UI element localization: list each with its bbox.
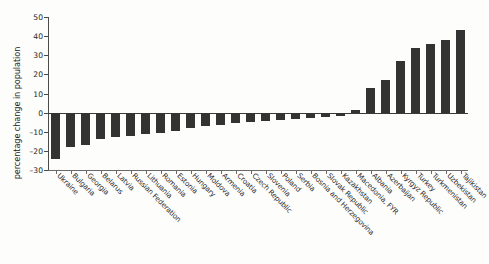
bar bbox=[336, 113, 346, 117]
bar bbox=[456, 30, 466, 112]
plot-area: 50403020100–10–20–30 bbox=[48, 17, 468, 170]
x-tick-mark bbox=[296, 170, 297, 174]
bar bbox=[321, 113, 331, 118]
x-tick-mark bbox=[236, 170, 237, 174]
x-tick-mark bbox=[86, 170, 87, 174]
x-tick-mark bbox=[221, 170, 222, 174]
bar bbox=[141, 113, 151, 134]
bar bbox=[351, 110, 361, 113]
y-axis-line bbox=[48, 17, 49, 170]
x-tick-mark bbox=[116, 170, 117, 174]
x-tick-mark bbox=[146, 170, 147, 174]
y-tick-mark bbox=[44, 113, 48, 114]
x-tick-mark bbox=[386, 170, 387, 174]
x-tick-mark bbox=[416, 170, 417, 174]
y-tick-mark bbox=[44, 55, 48, 56]
x-tick-mark bbox=[206, 170, 207, 174]
y-axis-title: percentage change in population bbox=[12, 38, 22, 188]
x-tick-mark bbox=[461, 170, 462, 174]
bar bbox=[66, 113, 76, 147]
x-tick-mark bbox=[281, 170, 282, 174]
bar bbox=[291, 113, 301, 120]
x-tick-mark bbox=[356, 170, 357, 174]
x-tick-mark bbox=[446, 170, 447, 174]
y-tick-mark bbox=[44, 74, 48, 75]
bar bbox=[276, 113, 286, 121]
x-tick-mark bbox=[161, 170, 162, 174]
y-tick-mark bbox=[44, 132, 48, 133]
bar bbox=[156, 113, 166, 133]
y-tick-mark bbox=[44, 36, 48, 37]
bar bbox=[126, 113, 136, 136]
bar bbox=[51, 113, 61, 159]
x-tick-mark bbox=[191, 170, 192, 174]
y-tick-mark bbox=[44, 151, 48, 152]
bar bbox=[306, 113, 316, 119]
x-tick-mark bbox=[371, 170, 372, 174]
bar bbox=[381, 80, 391, 113]
x-tick-mark bbox=[56, 170, 57, 174]
bar bbox=[366, 88, 376, 113]
x-tick-mark bbox=[101, 170, 102, 174]
x-tick-mark bbox=[131, 170, 132, 174]
y-tick-mark bbox=[44, 17, 48, 18]
y-tick-label: –10 bbox=[30, 127, 43, 136]
bar bbox=[111, 113, 121, 138]
x-tick-mark bbox=[311, 170, 312, 174]
x-tick-mark bbox=[341, 170, 342, 174]
x-tick-mark bbox=[401, 170, 402, 174]
y-tick-label: 30 bbox=[33, 51, 43, 60]
x-tick-mark bbox=[71, 170, 72, 174]
x-tick-mark bbox=[266, 170, 267, 174]
y-tick-label: –30 bbox=[30, 166, 43, 175]
y-tick-label: 50 bbox=[33, 13, 43, 22]
x-axis-labels: UkraineBulgariaGeorgiaBelarusLatviaRussi… bbox=[48, 174, 468, 262]
bar bbox=[216, 113, 226, 125]
y-tick-label: 40 bbox=[33, 32, 43, 41]
bar bbox=[201, 113, 211, 126]
bar bbox=[171, 113, 181, 131]
y-tick-label: 0 bbox=[38, 108, 43, 117]
bar bbox=[411, 48, 421, 113]
bar bbox=[81, 113, 91, 146]
y-tick-mark bbox=[44, 94, 48, 95]
bar bbox=[441, 40, 451, 113]
bar bbox=[231, 113, 241, 124]
y-tick-label: –20 bbox=[30, 146, 43, 155]
x-tick-mark bbox=[176, 170, 177, 174]
x-tick-mark bbox=[251, 170, 252, 174]
x-tick-mark bbox=[431, 170, 432, 174]
bar bbox=[261, 113, 271, 122]
y-tick-label: 20 bbox=[33, 70, 43, 79]
x-tick-mark bbox=[326, 170, 327, 174]
y-tick-label: 10 bbox=[33, 89, 43, 98]
bar bbox=[186, 113, 196, 128]
bar bbox=[396, 61, 406, 113]
bar bbox=[426, 44, 436, 113]
bar bbox=[96, 113, 106, 140]
bar bbox=[246, 113, 256, 123]
